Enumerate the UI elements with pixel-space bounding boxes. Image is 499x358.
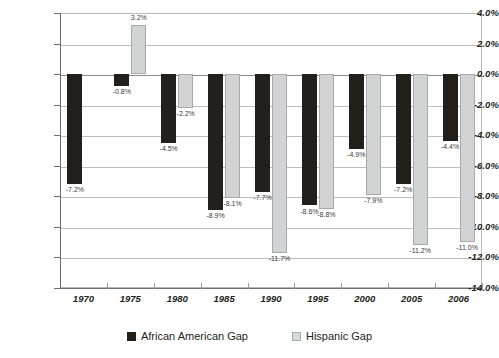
bar[interactable] [396, 74, 411, 184]
y-axis-line [60, 13, 61, 289]
bar-value-label: -7.9% [353, 197, 393, 204]
bar-value-label: -11.0% [447, 244, 487, 251]
bar[interactable] [319, 74, 334, 208]
bar[interactable] [302, 74, 317, 205]
x-axis-tick [482, 283, 483, 289]
y-axis-label: 2.0% [447, 39, 499, 49]
bar-value-label: -2.2% [166, 110, 206, 117]
bar-value-label: -0.8% [102, 88, 142, 95]
legend-label: Hispanic Gap [306, 330, 372, 342]
x-axis-tick [248, 283, 249, 289]
y-axis-tick [54, 257, 61, 258]
y-axis-tick [54, 288, 61, 289]
bar-value-label: -8.9% [196, 212, 236, 219]
y-axis-tick [54, 135, 61, 136]
x-axis-tick [107, 283, 108, 289]
y-axis-tick [54, 105, 61, 106]
y-axis-tick [54, 44, 61, 45]
bar[interactable] [208, 74, 223, 210]
legend-swatch-icon [127, 332, 136, 341]
bar-value-label: -8.1% [213, 200, 253, 207]
y-axis-label: 4.0% [447, 8, 499, 18]
y-axis-label: -12.0% [447, 252, 499, 262]
gridline [61, 45, 481, 46]
bar[interactable] [178, 74, 193, 108]
bar[interactable] [67, 74, 82, 184]
bar[interactable] [413, 74, 428, 245]
chart-legend: African American Gap Hispanic Gap [0, 330, 499, 342]
bar-value-label: -4.5% [149, 145, 189, 152]
bar[interactable] [272, 74, 287, 253]
y-axis-tick [54, 13, 61, 14]
x-axis-label: 2006 [429, 294, 489, 304]
bar-value-label: -7.2% [55, 186, 95, 193]
bar[interactable] [443, 74, 458, 141]
y-axis-tick [54, 166, 61, 167]
bar[interactable] [460, 74, 475, 242]
x-axis-tick [294, 283, 295, 289]
bar-value-label: 3.2% [119, 14, 159, 21]
bar[interactable] [114, 74, 129, 86]
legend-item-african-american-gap: African American Gap [127, 330, 248, 342]
bar[interactable] [349, 74, 364, 149]
bar-value-label: -11.7% [260, 255, 300, 262]
bar[interactable] [366, 74, 381, 195]
x-axis-tick [154, 283, 155, 289]
bar[interactable] [225, 74, 240, 198]
y-axis-label: -14.0% [447, 283, 499, 293]
bar-value-label: -8.8% [306, 211, 346, 218]
y-axis-tick [54, 196, 61, 197]
y-axis-tick [54, 74, 61, 75]
x-axis-tick [388, 283, 389, 289]
bar[interactable] [161, 74, 176, 143]
legend-label: African American Gap [141, 330, 248, 342]
bar-value-label: -11.2% [400, 247, 440, 254]
x-axis-tick [201, 283, 202, 289]
legend-swatch-icon [292, 332, 301, 341]
bar-chart: 4.0%2.0%0.0%-2.0%-4.0%-6.0%-8.0%-10.0%-1… [0, 0, 499, 358]
x-axis-line [60, 288, 483, 289]
x-axis-tick [341, 283, 342, 289]
bar[interactable] [131, 25, 146, 74]
y-axis-tick [54, 227, 61, 228]
legend-item-hispanic-gap: Hispanic Gap [292, 330, 372, 342]
bar[interactable] [255, 74, 270, 192]
x-axis-tick [435, 283, 436, 289]
